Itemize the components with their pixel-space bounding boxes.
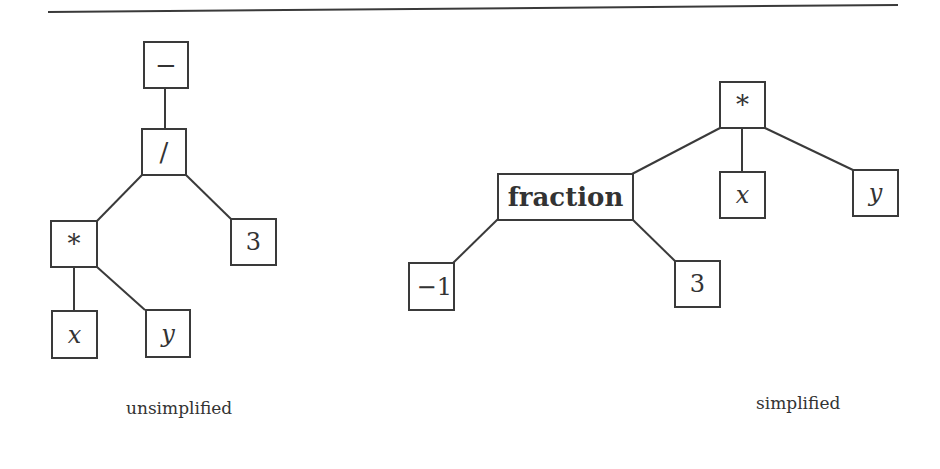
edge-fraction-neg1 (453, 219, 498, 263)
edge-mul-y-s (765, 128, 853, 170)
caption-simplified: simplified (756, 393, 840, 413)
edge-fraction-3 (632, 219, 675, 261)
node-multiply-simplified: * (719, 81, 766, 129)
node-y: y (145, 309, 191, 358)
top-rule (48, 5, 898, 12)
edge-mul-y (97, 267, 145, 310)
edge-div-3 (186, 175, 231, 219)
node-three-simplified: 3 (674, 260, 721, 308)
node-minus: − (143, 41, 189, 89)
node-three: 3 (230, 218, 277, 266)
node-fraction: fraction (497, 173, 634, 221)
node-negative-one: −1 (408, 262, 455, 311)
node-divide: / (141, 128, 187, 176)
node-multiply: * (50, 220, 98, 268)
node-y-simplified: y (852, 169, 899, 217)
edge-mul-fraction (632, 128, 720, 174)
caption-unsimplified: unsimplified (126, 398, 232, 418)
node-x-simplified: x (719, 171, 766, 219)
edge-div-mul (97, 175, 142, 221)
node-x: x (51, 310, 98, 359)
